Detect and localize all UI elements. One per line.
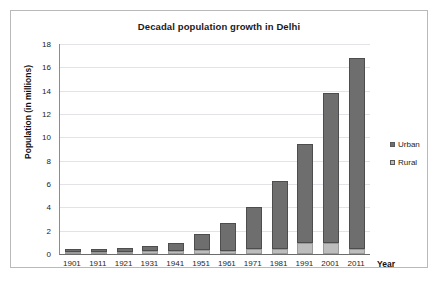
bar-group[interactable] <box>246 44 262 254</box>
bar-segment-rural[interactable] <box>349 249 365 254</box>
bar-group[interactable] <box>194 44 210 254</box>
y-tick-label: 6 <box>47 180 51 189</box>
bar-group[interactable] <box>168 44 184 254</box>
bar-segment-rural[interactable] <box>91 252 107 254</box>
bar-group[interactable] <box>91 44 107 254</box>
x-tick-label: 1981 <box>270 259 288 268</box>
bar-segment-urban[interactable] <box>220 223 236 251</box>
bar-group[interactable] <box>297 44 313 254</box>
x-tick-label: 1921 <box>115 259 133 268</box>
bar-segment-urban[interactable] <box>142 246 158 251</box>
bar-segment-urban[interactable] <box>246 207 262 250</box>
y-tick-label: 4 <box>47 203 51 212</box>
y-axis-tick-labels: 024681012141618 <box>21 44 55 254</box>
bar-group[interactable] <box>272 44 288 254</box>
bar-segment-urban[interactable] <box>91 249 107 252</box>
chart-title: Decadal population growth in Delhi <box>11 21 427 32</box>
y-tick-label: 12 <box>42 110 51 119</box>
bar-group[interactable] <box>65 44 81 254</box>
chart-legend: UrbanRural <box>390 140 436 176</box>
x-tick-label: 1941 <box>166 259 184 268</box>
bar-segment-rural[interactable] <box>194 250 210 254</box>
bar-segment-urban[interactable] <box>297 144 313 243</box>
bar-segment-urban[interactable] <box>323 93 339 244</box>
bars-layer <box>60 44 370 254</box>
bar-segment-rural[interactable] <box>297 243 313 254</box>
x-axis-title: Year <box>377 259 395 269</box>
chart-frame: Decadal population growth in Delhi Popul… <box>10 10 428 268</box>
y-tick-label: 10 <box>42 133 51 142</box>
legend-item[interactable]: Urban <box>390 140 436 149</box>
y-tick-label: 16 <box>42 63 51 72</box>
x-tick-label: 2001 <box>321 259 339 268</box>
bar-segment-rural[interactable] <box>117 252 133 254</box>
bar-segment-urban[interactable] <box>272 181 288 248</box>
legend-item[interactable]: Rural <box>390 158 436 167</box>
bar-segment-urban[interactable] <box>194 234 210 251</box>
bar-group[interactable] <box>117 44 133 254</box>
bar-segment-urban[interactable] <box>117 248 133 252</box>
legend-label: Urban <box>398 140 420 149</box>
x-tick-label: 1951 <box>192 259 210 268</box>
bar-segment-urban[interactable] <box>349 58 365 249</box>
x-tick-label: 1971 <box>244 259 262 268</box>
bar-segment-urban[interactable] <box>168 243 184 250</box>
legend-swatch-icon <box>390 160 395 165</box>
y-tick-label: 2 <box>47 226 51 235</box>
x-tick-label: 1901 <box>63 259 81 268</box>
bar-group[interactable] <box>220 44 236 254</box>
bar-segment-urban[interactable] <box>65 249 81 252</box>
bar-group[interactable] <box>142 44 158 254</box>
bar-segment-rural[interactable] <box>65 252 81 254</box>
bar-segment-rural[interactable] <box>246 249 262 254</box>
bar-segment-rural[interactable] <box>142 251 158 254</box>
bar-group[interactable] <box>323 44 339 254</box>
bar-segment-rural[interactable] <box>272 249 288 254</box>
bar-segment-rural[interactable] <box>220 251 236 255</box>
legend-label: Rural <box>398 158 417 167</box>
legend-swatch-icon <box>390 142 395 147</box>
bar-segment-rural[interactable] <box>168 251 184 255</box>
y-tick-label: 0 <box>47 250 51 259</box>
bar-segment-rural[interactable] <box>323 243 339 254</box>
plot-area <box>59 44 370 255</box>
x-tick-label: 1991 <box>296 259 314 268</box>
y-tick-label: 18 <box>42 40 51 49</box>
y-tick-label: 8 <box>47 156 51 165</box>
x-tick-label: 1911 <box>89 259 106 268</box>
x-tick-label: 1931 <box>141 259 159 268</box>
bar-group[interactable] <box>349 44 365 254</box>
y-tick-label: 14 <box>42 86 51 95</box>
x-tick-label: 1961 <box>218 259 236 268</box>
x-tick-label: 2011 <box>347 259 364 268</box>
